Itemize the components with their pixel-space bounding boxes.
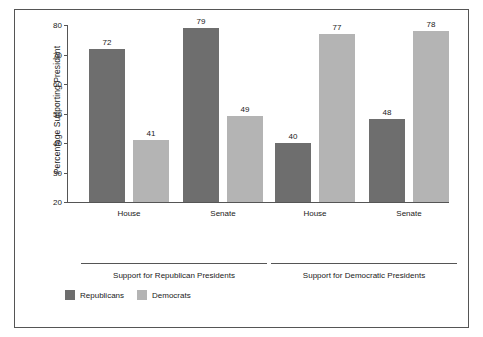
y-axis-line: [67, 25, 68, 203]
bar-dem-senate-1: 49: [227, 116, 263, 202]
bar-value: 78: [427, 20, 436, 29]
chart-legend: Republicans Democrats: [65, 290, 191, 300]
y-tick-label-40: 40: [53, 139, 62, 148]
bar-rep-house-2: 40: [275, 143, 311, 202]
legend-item-democrats: Democrats: [137, 290, 191, 300]
legend-item-republicans: Republicans: [65, 290, 124, 300]
x-group-label-house-1: House: [117, 209, 140, 218]
bar-dem-house-2: 77: [319, 34, 355, 202]
bar-value: 41: [147, 129, 156, 138]
y-tick-mark: [64, 173, 67, 174]
y-tick-mark: [64, 55, 67, 56]
bar-rep-house-1: 72: [89, 49, 125, 202]
legend-label-republicans: Republicans: [80, 291, 124, 300]
x-axis-line: [67, 202, 449, 203]
legend-swatch-icon: [65, 290, 75, 300]
y-tick-mark: [64, 202, 67, 203]
legend-swatch-icon: [137, 290, 147, 300]
plot-area: 20 30 40 50 60 70 80 72 41 79 49: [67, 25, 449, 203]
bar-value: 49: [241, 105, 250, 114]
y-tick-mark: [64, 143, 67, 144]
y-tick-label-30: 30: [53, 168, 62, 177]
bar-dem-senate-2: 78: [413, 31, 449, 202]
y-tick-mark: [64, 84, 67, 85]
bar-rep-senate-1: 79: [183, 28, 219, 202]
section-caption-democratic: Support for Democratic Presidents: [303, 271, 425, 280]
y-tick-label-50: 50: [53, 109, 62, 118]
y-tick-mark: [64, 114, 67, 115]
bar-rep-senate-2: 48: [369, 119, 405, 202]
chart-page: Percentage Supporting President 20 30 40…: [0, 0, 483, 337]
bar-value: 40: [289, 132, 298, 141]
bar-value: 72: [103, 38, 112, 47]
section-caption-republican: Support for Republican Presidents: [113, 271, 235, 280]
y-tick-label-80: 80: [53, 21, 62, 30]
x-group-label-senate-2: Senate: [396, 209, 421, 218]
x-group-label-senate-1: Senate: [210, 209, 235, 218]
y-tick-mark: [64, 25, 67, 26]
bar-value: 48: [383, 108, 392, 117]
bar-dem-house-1: 41: [133, 140, 169, 202]
bar-value: 79: [197, 17, 206, 26]
legend-label-democrats: Democrats: [152, 291, 191, 300]
chart-frame: Percentage Supporting President 20 30 40…: [14, 9, 469, 328]
section-rule-democratic: [271, 263, 457, 264]
y-tick-label-60: 60: [53, 80, 62, 89]
x-group-label-house-2: House: [303, 209, 326, 218]
y-tick-label-70: 70: [53, 50, 62, 59]
y-tick-label-20: 20: [53, 198, 62, 207]
section-rule-republican: [81, 263, 267, 264]
bar-value: 77: [333, 23, 342, 32]
